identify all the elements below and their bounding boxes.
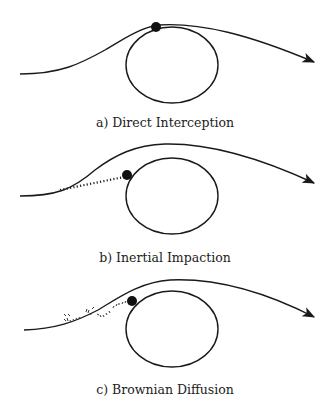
particle-capture-diagram: a) Direct Interception b) Inertial Impac… (0, 0, 330, 401)
particle (122, 170, 132, 180)
collector-fiber (126, 158, 218, 234)
particle (151, 22, 161, 32)
panel-direct-interception: a) Direct Interception (20, 22, 314, 130)
panel-inertial-impaction: b) Inertial Impaction (20, 144, 314, 265)
streamline (24, 280, 314, 330)
particle (127, 296, 137, 306)
caption: c) Brownian Diffusion (96, 382, 234, 397)
collector-fiber (126, 27, 218, 103)
panel-brownian-diffusion: c) Brownian Diffusion (24, 280, 314, 397)
collector-fiber (126, 291, 218, 367)
caption: b) Inertial Impaction (99, 250, 231, 265)
caption: a) Direct Interception (96, 115, 234, 130)
streamline (20, 25, 314, 74)
